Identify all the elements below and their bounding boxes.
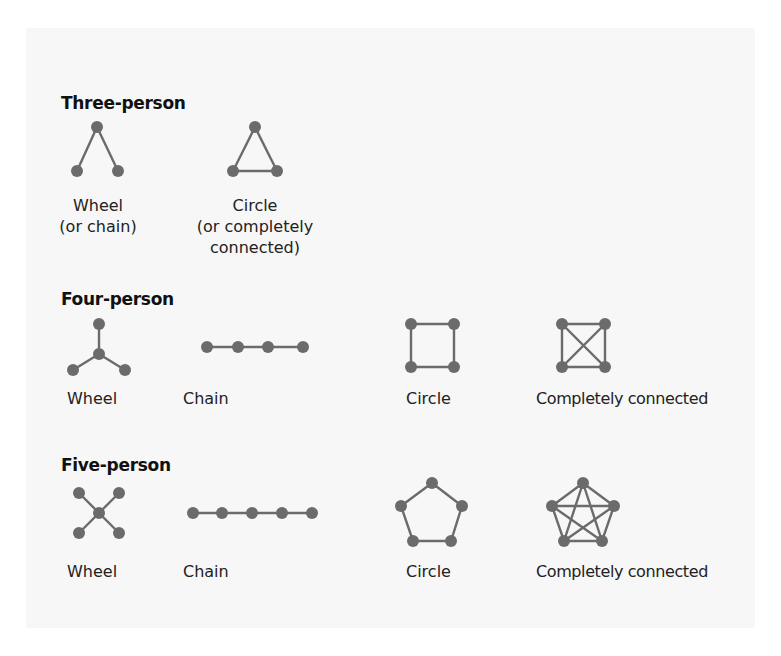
label-four-person-chain: Chain — [183, 388, 229, 409]
label-four-person-wheel: Wheel — [67, 388, 117, 409]
section-heading-three-person: Three-person — [61, 93, 186, 113]
four-person-completely-connected-network — [556, 318, 611, 373]
five-person-chain-network — [187, 507, 318, 519]
three-person-wheel-network — [71, 121, 124, 177]
label-three-person-circle: Circle (or completely connected) — [195, 195, 315, 258]
section-heading-four-person: Four-person — [61, 289, 174, 309]
five-person-wheel-network — [73, 487, 125, 539]
label-five-person-chain: Chain — [183, 561, 229, 582]
four-person-wheel-network — [67, 318, 131, 376]
label-five-person-wheel: Wheel — [67, 561, 117, 582]
five-person-circle-network — [395, 477, 468, 547]
four-person-circle-network — [405, 318, 460, 373]
five-person-completely-connected-network — [546, 477, 620, 547]
label-four-person-completely-connected: Completely connected — [536, 388, 708, 409]
three-person-circle-network — [227, 121, 283, 177]
label-three-person-wheel: Wheel (or chain) — [50, 195, 146, 237]
label-five-person-circle: Circle — [406, 561, 451, 582]
four-person-chain-network — [201, 341, 309, 353]
section-heading-five-person: Five-person — [61, 455, 171, 475]
label-four-person-circle: Circle — [406, 388, 451, 409]
label-five-person-completely-connected: Completely connected — [536, 561, 708, 582]
